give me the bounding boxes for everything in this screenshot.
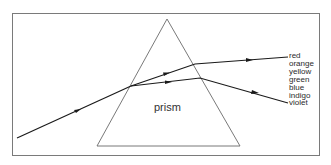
diagram-frame [13,14,320,156]
incident-ray-arrow-icon [74,109,81,113]
prism-diagram [0,0,331,165]
violet-ray-outer-arrow-icon [251,90,259,94]
prism-label: prism [154,101,181,113]
incident-white-light-ray [17,86,131,138]
red-ray-outer-arrow-icon [246,58,253,62]
red-ray [131,57,288,86]
red-ray-inner-arrow-icon [163,73,170,77]
spectrum-label-violet: violet [289,99,308,107]
violet-ray [131,78,288,103]
